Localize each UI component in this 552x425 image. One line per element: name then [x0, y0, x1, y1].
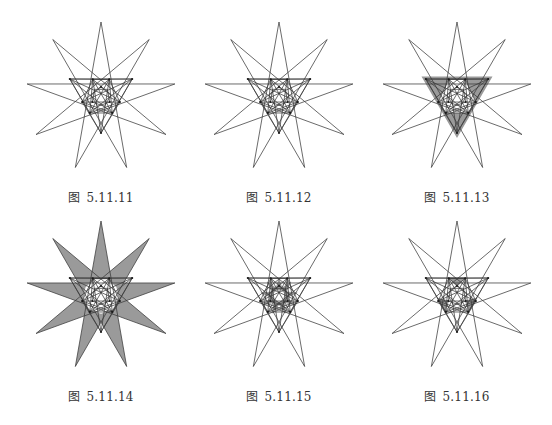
star-edge [392, 239, 505, 334]
intersection-dot [475, 300, 477, 302]
star-figure-5-11-14 [27, 221, 175, 366]
intersection-dot [475, 101, 477, 103]
caption-5-11-15: 图5.11.15 [194, 387, 364, 404]
intersection-dot [309, 277, 311, 279]
star-edge [214, 40, 327, 135]
intersection-dot [111, 112, 113, 114]
caption-number: 5.11.14 [87, 390, 134, 404]
intersection-dot [487, 277, 489, 279]
intersection-dot [267, 112, 269, 114]
intersection-dot [267, 311, 269, 313]
intersection-dot [456, 331, 458, 333]
intersection-dot [287, 101, 289, 103]
caption-prefix: 图 [246, 390, 258, 404]
intersection-dot [309, 78, 311, 80]
intersection-dot [448, 277, 450, 279]
intersection-dot [100, 331, 102, 333]
star-edge [36, 40, 149, 135]
intersection-dot [92, 277, 94, 279]
intersection-dot [131, 78, 133, 80]
star-figure-5-11-12 [205, 22, 353, 167]
intersection-dot [464, 277, 466, 279]
intersection-dot [448, 78, 450, 80]
caption-prefix: 图 [424, 390, 436, 404]
figure-canvas [0, 0, 552, 425]
intersection-dot [100, 285, 102, 287]
intersection-dot [259, 300, 261, 302]
intersection-dot [289, 311, 291, 313]
intersection-dot [456, 86, 458, 88]
caption-5-11-11: 图5.11.11 [16, 188, 186, 205]
intersection-dot [278, 285, 280, 287]
intersection-dot [464, 78, 466, 80]
intersection-dot [297, 300, 299, 302]
intersection-dot [119, 101, 121, 103]
intersection-dot [109, 101, 111, 103]
intersection-dot [289, 112, 291, 114]
intersection-dot [270, 78, 272, 80]
shaded-spike [91, 221, 112, 279]
intersection-dot [247, 277, 249, 279]
caption-number: 5.11.15 [265, 390, 312, 404]
star-edge [231, 40, 344, 135]
intersection-dot [91, 300, 93, 302]
star-figure-5-11-16 [383, 221, 531, 366]
caption-number: 5.11.16 [443, 390, 490, 404]
intersection-dot [119, 300, 121, 302]
intersection-dot [89, 112, 91, 114]
intersection-dot [447, 101, 449, 103]
intersection-dot [131, 277, 133, 279]
star-edge [409, 239, 522, 334]
intersection-dot [81, 101, 83, 103]
star-figure-5-11-11 [27, 22, 175, 167]
caption-prefix: 图 [68, 390, 80, 404]
caption-5-11-16: 图5.11.16 [372, 387, 542, 404]
intersection-dot [286, 78, 288, 80]
caption-number: 5.11.11 [87, 191, 134, 205]
intersection-dot [456, 285, 458, 287]
intersection-dot [425, 277, 427, 279]
caption-number: 5.11.12 [265, 191, 312, 205]
intersection-dot [445, 311, 447, 313]
star-figure-5-11-15 [205, 221, 353, 366]
caption-5-11-12: 图5.11.12 [194, 188, 364, 205]
caption-prefix: 图 [68, 191, 80, 205]
intersection-dot [465, 101, 467, 103]
intersection-dot [425, 78, 427, 80]
intersection-dot [100, 86, 102, 88]
caption-5-11-14: 图5.11.14 [16, 387, 186, 404]
intersection-dot [278, 331, 280, 333]
star-edge [53, 40, 166, 135]
intersection-dot [69, 277, 71, 279]
intersection-dot [297, 101, 299, 103]
intersection-dot [456, 132, 458, 134]
star-figure-5-11-13 [383, 22, 531, 167]
intersection-dot [269, 300, 271, 302]
intersection-dot [447, 300, 449, 302]
intersection-dot [270, 277, 272, 279]
intersection-dot [91, 101, 93, 103]
intersection-dot [487, 78, 489, 80]
intersection-dot [437, 101, 439, 103]
intersection-dot [92, 78, 94, 80]
intersection-dot [278, 132, 280, 134]
intersection-dot [467, 112, 469, 114]
intersection-dot [247, 78, 249, 80]
intersection-dot [111, 311, 113, 313]
shaded-triangle-band [421, 77, 492, 139]
caption-5-11-13: 图5.11.13 [372, 188, 542, 205]
intersection-dot [108, 277, 110, 279]
intersection-dot [108, 78, 110, 80]
intersection-dot [467, 311, 469, 313]
intersection-dot [109, 300, 111, 302]
intersection-dot [89, 311, 91, 313]
intersection-dot [100, 132, 102, 134]
intersection-dot [437, 300, 439, 302]
intersection-dot [81, 300, 83, 302]
intersection-dot [69, 78, 71, 80]
star-edge [231, 239, 344, 334]
intersection-dot [287, 300, 289, 302]
caption-prefix: 图 [246, 191, 258, 205]
intersection-dot [269, 101, 271, 103]
intersection-dot [445, 112, 447, 114]
